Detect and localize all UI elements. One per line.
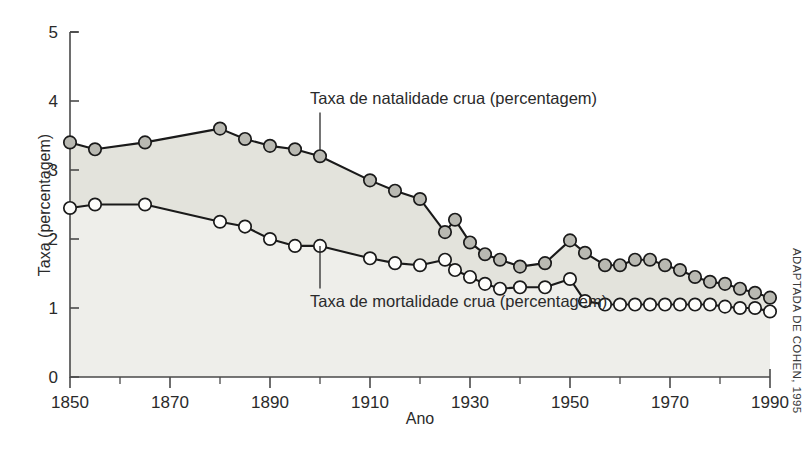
data-point (579, 247, 591, 259)
data-point (659, 298, 671, 310)
data-point (764, 305, 776, 317)
y-axis-title: Taxa (percentagem) (36, 134, 53, 276)
x-tick-label: 1850 (51, 393, 89, 412)
data-point (64, 136, 76, 148)
data-point (479, 278, 491, 290)
data-point (414, 259, 426, 271)
data-point (364, 252, 376, 264)
data-point (389, 185, 401, 197)
data-point (564, 234, 576, 246)
data-point (644, 254, 656, 266)
data-point (414, 193, 426, 205)
y-tick-label: 4 (49, 92, 58, 111)
data-point (89, 143, 101, 155)
x-tick-label: 1990 (751, 393, 789, 412)
data-point (479, 248, 491, 260)
data-point (629, 298, 641, 310)
y-tick-label: 1 (49, 299, 58, 318)
data-point (239, 133, 251, 145)
x-axis-title: Ano (406, 410, 435, 427)
y-tick-label: 5 (49, 23, 58, 42)
data-point (704, 276, 716, 288)
annotation-text: Taxa de natalidade crua (percentagem) (310, 89, 597, 107)
data-point (644, 298, 656, 310)
data-point (289, 240, 301, 252)
data-point (494, 254, 506, 266)
data-point (659, 259, 671, 271)
data-point (464, 236, 476, 248)
source-credit: ADAPTADA DE COHEN, 1995 (791, 248, 803, 414)
data-point (439, 254, 451, 266)
annotation-text: Taxa de mortalidade crua (percentagem) (310, 292, 607, 310)
data-point (264, 233, 276, 245)
x-tick-label: 1890 (251, 393, 289, 412)
rates-line-chart: 01234518501870189019101930195019701990 T… (0, 0, 809, 457)
data-point (539, 257, 551, 269)
data-point (719, 278, 731, 290)
data-point (314, 150, 326, 162)
data-point (239, 220, 251, 232)
data-point (674, 264, 686, 276)
data-point (139, 136, 151, 148)
data-point (704, 298, 716, 310)
data-point (674, 298, 686, 310)
x-tick-label: 1930 (451, 393, 489, 412)
y-tick-label: 0 (49, 368, 58, 387)
data-point (749, 287, 761, 299)
data-point (689, 298, 701, 310)
data-point (464, 271, 476, 283)
data-point (389, 257, 401, 269)
data-point (439, 226, 451, 238)
data-point (689, 271, 701, 283)
data-point (764, 291, 776, 303)
data-point (599, 259, 611, 271)
data-point (614, 259, 626, 271)
x-tick-label: 1970 (651, 393, 689, 412)
data-point (734, 282, 746, 294)
data-point (64, 202, 76, 214)
data-point (749, 302, 761, 314)
data-point (514, 260, 526, 272)
data-point (449, 213, 461, 225)
data-point (89, 198, 101, 210)
data-point (364, 174, 376, 186)
data-point (734, 302, 746, 314)
data-point (564, 273, 576, 285)
data-point (614, 298, 626, 310)
data-point (214, 122, 226, 134)
x-tick-label: 1870 (151, 393, 189, 412)
data-point (719, 300, 731, 312)
data-point (449, 264, 461, 276)
data-point (214, 216, 226, 228)
data-point (289, 143, 301, 155)
chart-figure: 01234518501870189019101930195019701990 T… (0, 0, 809, 457)
data-point (629, 254, 641, 266)
data-point (139, 198, 151, 210)
x-tick-label: 1910 (351, 393, 389, 412)
x-tick-label: 1950 (551, 393, 589, 412)
data-point (264, 140, 276, 152)
